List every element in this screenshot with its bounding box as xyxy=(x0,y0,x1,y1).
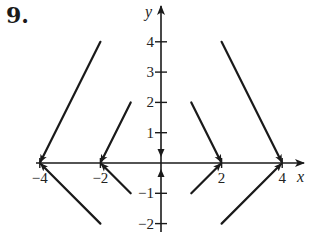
y-tick-label: −1 xyxy=(138,185,154,201)
x-tick-label: 4 xyxy=(278,170,286,186)
x-tick-label: 2 xyxy=(218,170,226,186)
y-axis-direction-arrow-icon xyxy=(158,169,165,177)
y-axis-label: y xyxy=(143,3,153,21)
y-tick-label: −2 xyxy=(138,216,154,232)
orbit-arrow xyxy=(101,102,131,161)
phase-diagram: xy−4−2244321−1−2 xyxy=(0,0,316,237)
y-tick-label: 4 xyxy=(147,34,155,50)
orbit-arrow xyxy=(191,164,220,193)
y-tick-label: 3 xyxy=(147,64,155,80)
y-axis-direction-arrow-icon xyxy=(158,149,165,157)
y-tick-label: 1 xyxy=(147,125,155,141)
orbit-arrow xyxy=(191,102,221,161)
orbit-arrow xyxy=(222,164,282,224)
x-tick-label: −2 xyxy=(92,170,108,186)
y-tick-label: 2 xyxy=(147,94,155,110)
x-tick-label: −4 xyxy=(32,170,48,186)
orbit-arrow xyxy=(222,42,282,162)
x-axis-label: x xyxy=(296,168,304,185)
orbit-arrow xyxy=(40,42,100,162)
axes: xy−4−2244321−1−2 xyxy=(32,3,304,232)
